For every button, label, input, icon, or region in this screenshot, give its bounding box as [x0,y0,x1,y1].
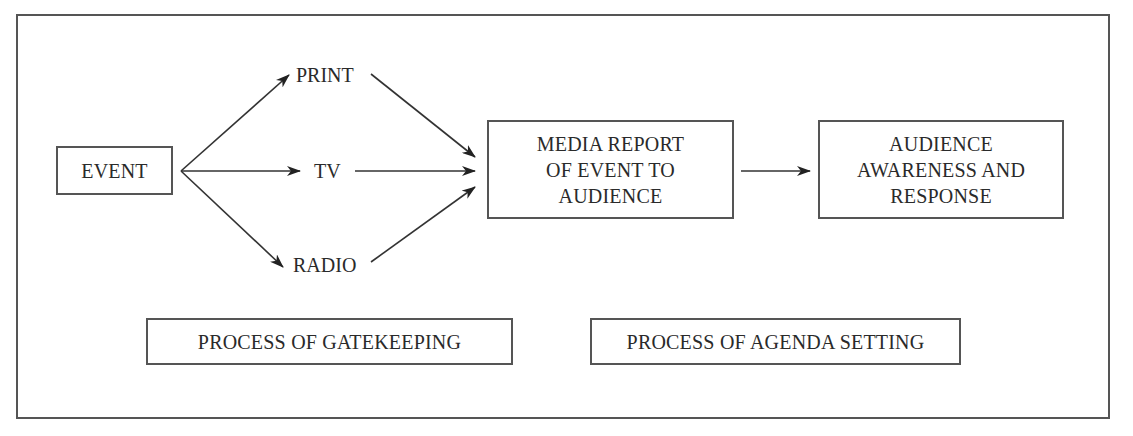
tv-node: TV [314,160,341,182]
audience-line-2: AWARENESS AND [857,157,1025,183]
media-report-node: MEDIA REPORT OF EVENT TO AUDIENCE [487,120,734,219]
arrow-print-to-media [371,74,475,157]
audience-line-3: RESPONSE [857,183,1025,209]
arrow-radio-to-media [371,187,475,262]
agenda-setting-label: PROCESS OF AGENDA SETTING [627,329,925,355]
radio-node: RADIO [293,254,356,276]
print-node: PRINT [296,64,354,86]
gatekeeping-process-box: PROCESS OF GATEKEEPING [146,318,513,365]
media-report-line-1: MEDIA REPORT [537,131,684,157]
arrow-event-to-print [181,75,289,171]
media-report-line-2: OF EVENT TO [537,157,684,183]
audience-node: AUDIENCE AWARENESS AND RESPONSE [818,120,1064,219]
agenda-setting-process-box: PROCESS OF AGENDA SETTING [590,318,961,365]
arrow-event-to-radio [181,171,283,267]
media-report-line-3: AUDIENCE [537,183,684,209]
gatekeeping-label: PROCESS OF GATEKEEPING [198,329,461,355]
event-node: EVENT [56,146,173,195]
audience-line-1: AUDIENCE [857,131,1025,157]
event-label: EVENT [81,158,148,184]
